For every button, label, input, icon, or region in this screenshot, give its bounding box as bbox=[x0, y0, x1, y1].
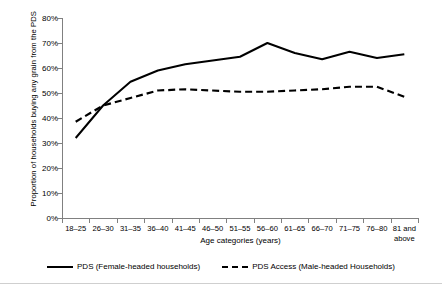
y-tick-label: 20% bbox=[42, 164, 58, 173]
x-category-label: 71–75 bbox=[339, 224, 360, 234]
x-category-label: 66–70 bbox=[312, 224, 333, 234]
y-tick-label: 60% bbox=[42, 64, 58, 73]
x-tick-mark bbox=[281, 219, 282, 223]
x-axis-title: Age categories (years) bbox=[62, 236, 419, 245]
x-category-label: 41–45 bbox=[175, 224, 196, 234]
chart-legend: PDS (Female-headed households) PDS Acces… bbox=[0, 262, 442, 271]
x-tick-mark bbox=[308, 219, 309, 223]
legend-label-male-headed: PDS Access (Male-headed Households) bbox=[252, 262, 395, 271]
y-tick-label: 80% bbox=[42, 14, 58, 23]
x-category-label: 31–35 bbox=[120, 224, 141, 234]
x-tick-mark bbox=[363, 219, 364, 223]
y-tick-label: 30% bbox=[42, 139, 58, 148]
y-tick-mark bbox=[57, 193, 62, 194]
y-tick-label: 70% bbox=[42, 39, 58, 48]
line-chart: Proportion of households buying any grai… bbox=[0, 0, 442, 287]
x-tick-mark bbox=[336, 219, 337, 223]
x-category-label: 26–30 bbox=[93, 224, 114, 234]
x-tick-mark bbox=[172, 219, 173, 223]
x-tick-mark bbox=[418, 219, 419, 223]
legend-item-male-headed: PDS Access (Male-headed Households) bbox=[222, 262, 395, 271]
legend-dashed-line-icon bbox=[222, 266, 248, 268]
x-category-label: 18–25 bbox=[65, 224, 86, 234]
y-tick-mark bbox=[57, 143, 62, 144]
x-category-label: 36–40 bbox=[147, 224, 168, 234]
y-tick-mark bbox=[57, 118, 62, 119]
x-tick-mark bbox=[226, 219, 227, 223]
x-category-label: 61–65 bbox=[284, 224, 305, 234]
x-category-label: 56–60 bbox=[257, 224, 278, 234]
bottom-divider bbox=[0, 283, 442, 284]
series-line-female-headed bbox=[76, 43, 405, 138]
x-tick-mark bbox=[62, 219, 63, 223]
legend-solid-line-icon bbox=[47, 266, 73, 268]
y-tick-mark bbox=[57, 93, 62, 94]
x-tick-mark bbox=[117, 219, 118, 223]
y-tick-mark bbox=[57, 18, 62, 19]
y-tick-mark bbox=[57, 43, 62, 44]
y-tick-label: 40% bbox=[42, 114, 58, 123]
y-axis-tick-labels: 0%10%20%30%40%50%60%70%80% bbox=[18, 0, 58, 287]
x-tick-mark bbox=[254, 219, 255, 223]
legend-label-female-headed: PDS (Female-headed households) bbox=[77, 262, 200, 271]
series-line-male-headed bbox=[76, 87, 405, 122]
legend-item-female-headed: PDS (Female-headed households) bbox=[47, 262, 200, 271]
x-axis-line bbox=[62, 218, 419, 219]
y-tick-mark bbox=[57, 168, 62, 169]
y-tick-mark bbox=[57, 68, 62, 69]
x-category-label: 76–80 bbox=[366, 224, 387, 234]
x-tick-mark bbox=[199, 219, 200, 223]
x-category-label: 51–55 bbox=[229, 224, 250, 234]
x-category-label: 46–50 bbox=[202, 224, 223, 234]
series-svg bbox=[62, 18, 418, 218]
plot-area bbox=[62, 18, 418, 218]
x-tick-mark bbox=[89, 219, 90, 223]
y-tick-label: 50% bbox=[42, 89, 58, 98]
x-tick-mark bbox=[391, 219, 392, 223]
y-tick-label: 10% bbox=[42, 189, 58, 198]
x-tick-mark bbox=[144, 219, 145, 223]
